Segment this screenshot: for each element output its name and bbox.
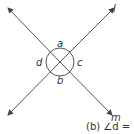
- label-l: l: [113, 3, 116, 14]
- question-caption: (b) ∠d = .: [86, 121, 134, 132]
- line-l: [60, 8, 114, 62]
- line-m: [8, 8, 60, 62]
- angle-b-label: b: [57, 75, 63, 86]
- angle-d-label: d: [36, 57, 43, 68]
- line-m-lower: [60, 62, 112, 115]
- intersecting-lines-diagram: l m a b c d: [0, 0, 134, 134]
- angle-a-label: a: [57, 38, 63, 49]
- angle-c-label: c: [77, 57, 83, 68]
- diagram-canvas: l m a b c d (b) ∠d = .: [0, 0, 134, 134]
- line-l-lower: [8, 62, 60, 115]
